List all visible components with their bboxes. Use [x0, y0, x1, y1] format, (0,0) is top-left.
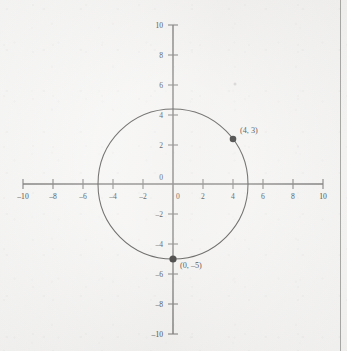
x-label--10: –10 [16, 192, 29, 201]
y-label-8: 8 [159, 51, 163, 60]
y-axis-tick-labels: 10 8 6 4 2 0 –2 –4 –6 –8 –10 [151, 21, 164, 339]
y-label--10: –10 [151, 330, 164, 339]
y-label-2: 2 [159, 141, 163, 150]
point-label-0--5: (0, –5) [180, 261, 202, 270]
x-label-4: 4 [231, 192, 235, 201]
plotted-points: (4, 3) (0, –5) [169, 126, 258, 270]
x-label--4: –4 [108, 192, 117, 201]
figure-page: –10 –8 –6 –4 –2 0 2 4 6 8 10 10 8 6 4 2 … [0, 0, 347, 351]
y-label-4: 4 [159, 111, 163, 120]
y-label--2: –2 [154, 210, 163, 219]
scan-speck-artifact [234, 83, 237, 86]
x-label-6: 6 [261, 192, 265, 201]
x-label-0: 0 [176, 192, 180, 201]
page-edge-border [340, 0, 341, 351]
point-label-4-3: (4, 3) [240, 126, 258, 135]
y-label--4: –4 [154, 240, 163, 249]
x-label--8: –8 [48, 192, 57, 201]
point-marker-4-3 [230, 136, 237, 143]
y-label--8: –8 [154, 300, 163, 309]
y-label--6: –6 [154, 270, 163, 279]
y-label-0: 0 [159, 173, 163, 182]
y-label-6: 6 [159, 81, 163, 90]
x-label-10: 10 [319, 192, 327, 201]
x-label--6: –6 [78, 192, 87, 201]
x-axis-tick-labels: –10 –8 –6 –4 –2 0 2 4 6 8 10 [16, 192, 327, 201]
x-label-8: 8 [291, 192, 295, 201]
y-label-10: 10 [155, 21, 163, 30]
x-label-2: 2 [201, 192, 205, 201]
coordinate-plane-figure: –10 –8 –6 –4 –2 0 2 4 6 8 10 10 8 6 4 2 … [0, 0, 347, 351]
axes-group [23, 25, 323, 334]
point-marker-0--5 [169, 255, 176, 262]
x-label--2: –2 [138, 192, 147, 201]
